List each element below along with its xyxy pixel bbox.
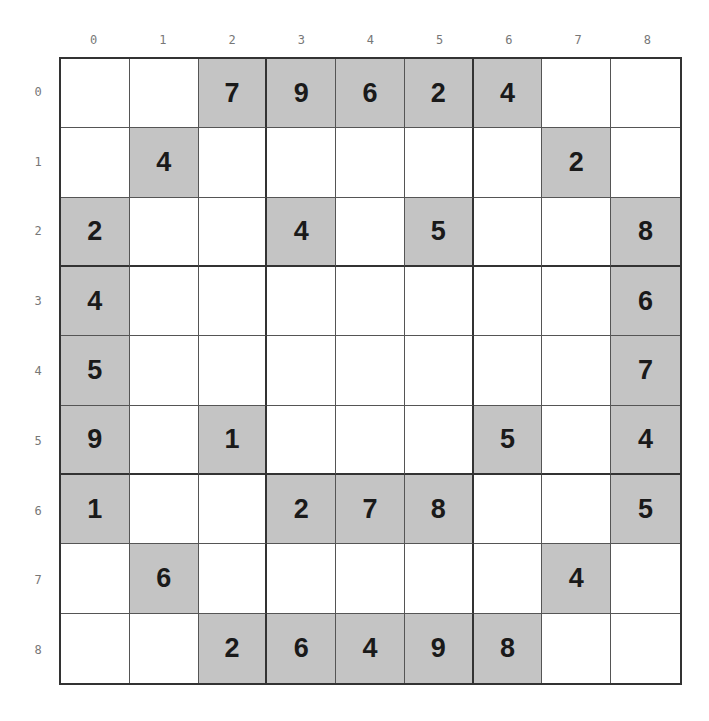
given-cell: 2: [61, 198, 130, 267]
given-cell: 6: [130, 544, 199, 613]
given-cell: 2: [542, 128, 611, 197]
column-label: 4: [336, 33, 405, 47]
empty-cell[interactable]: [267, 267, 336, 336]
given-cell: 8: [405, 475, 474, 544]
row-label: 3: [30, 291, 46, 311]
column-label: 8: [613, 33, 682, 47]
empty-cell[interactable]: [336, 406, 405, 475]
empty-cell[interactable]: [542, 336, 611, 405]
empty-cell[interactable]: [542, 475, 611, 544]
empty-cell[interactable]: [199, 336, 268, 405]
column-label: 3: [267, 33, 336, 47]
empty-cell[interactable]: [199, 544, 268, 613]
empty-cell[interactable]: [61, 614, 130, 683]
empty-cell[interactable]: [611, 544, 680, 613]
given-cell: 4: [61, 267, 130, 336]
column-label: 7: [544, 33, 613, 47]
empty-cell[interactable]: [61, 59, 130, 128]
empty-cell[interactable]: [405, 544, 474, 613]
given-cell: 9: [267, 59, 336, 128]
empty-cell[interactable]: [130, 336, 199, 405]
given-cell: 4: [267, 198, 336, 267]
empty-cell[interactable]: [61, 544, 130, 613]
empty-cell[interactable]: [474, 336, 543, 405]
given-cell: 6: [611, 267, 680, 336]
given-cell: 5: [405, 198, 474, 267]
given-cell: 2: [405, 59, 474, 128]
row-label: 1: [30, 152, 46, 172]
given-cell: 7: [199, 59, 268, 128]
empty-cell[interactable]: [267, 406, 336, 475]
empty-cell[interactable]: [474, 267, 543, 336]
empty-cell[interactable]: [61, 128, 130, 197]
given-cell: 6: [267, 614, 336, 683]
given-cell: 4: [611, 406, 680, 475]
empty-cell[interactable]: [267, 128, 336, 197]
empty-cell[interactable]: [474, 198, 543, 267]
empty-cell[interactable]: [611, 128, 680, 197]
given-cell: 4: [130, 128, 199, 197]
given-cell: 4: [336, 614, 405, 683]
empty-cell[interactable]: [474, 544, 543, 613]
row-label: 8: [30, 640, 46, 660]
row-label: 5: [30, 431, 46, 451]
given-cell: 9: [61, 406, 130, 475]
empty-cell[interactable]: [611, 614, 680, 683]
empty-cell[interactable]: [199, 198, 268, 267]
empty-cell[interactable]: [611, 59, 680, 128]
row-label: 6: [30, 501, 46, 521]
column-label: 1: [128, 33, 197, 47]
empty-cell[interactable]: [405, 267, 474, 336]
sudoku-board: 7962442245846579154127856426498: [59, 57, 682, 685]
empty-cell[interactable]: [474, 128, 543, 197]
given-cell: 4: [474, 59, 543, 128]
given-cell: 9: [405, 614, 474, 683]
given-cell: 5: [474, 406, 543, 475]
given-cell: 1: [61, 475, 130, 544]
given-cell: 4: [542, 544, 611, 613]
empty-cell[interactable]: [130, 267, 199, 336]
empty-cell[interactable]: [199, 128, 268, 197]
given-cell: 5: [61, 336, 130, 405]
given-cell: 5: [611, 475, 680, 544]
empty-cell[interactable]: [199, 475, 268, 544]
row-label: 7: [30, 570, 46, 590]
empty-cell[interactable]: [130, 198, 199, 267]
empty-cell[interactable]: [474, 475, 543, 544]
row-label: 4: [30, 361, 46, 381]
column-label: 5: [405, 33, 474, 47]
empty-cell[interactable]: [405, 128, 474, 197]
empty-cell[interactable]: [542, 198, 611, 267]
empty-cell[interactable]: [542, 267, 611, 336]
empty-cell[interactable]: [336, 336, 405, 405]
column-label: 2: [197, 33, 266, 47]
given-cell: 7: [336, 475, 405, 544]
given-cell: 7: [611, 336, 680, 405]
empty-cell[interactable]: [267, 544, 336, 613]
given-cell: 6: [336, 59, 405, 128]
empty-cell[interactable]: [267, 336, 336, 405]
empty-cell[interactable]: [542, 59, 611, 128]
empty-cell[interactable]: [405, 336, 474, 405]
empty-cell[interactable]: [130, 475, 199, 544]
empty-cell[interactable]: [199, 267, 268, 336]
given-cell: 1: [199, 406, 268, 475]
given-cell: 8: [611, 198, 680, 267]
empty-cell[interactable]: [542, 406, 611, 475]
empty-cell[interactable]: [542, 614, 611, 683]
given-cell: 8: [474, 614, 543, 683]
empty-cell[interactable]: [336, 128, 405, 197]
column-label: 0: [59, 33, 128, 47]
empty-cell[interactable]: [130, 406, 199, 475]
empty-cell[interactable]: [336, 198, 405, 267]
row-label: 2: [30, 221, 46, 241]
empty-cell[interactable]: [405, 406, 474, 475]
given-cell: 2: [199, 614, 268, 683]
empty-cell[interactable]: [336, 544, 405, 613]
row-label: 0: [30, 82, 46, 102]
empty-cell[interactable]: [336, 267, 405, 336]
empty-cell[interactable]: [130, 59, 199, 128]
given-cell: 2: [267, 475, 336, 544]
column-label: 6: [474, 33, 543, 47]
empty-cell[interactable]: [130, 614, 199, 683]
